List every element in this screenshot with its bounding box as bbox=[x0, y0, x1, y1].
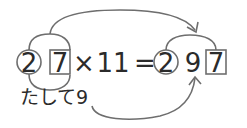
caption-add-to-9: たして9 bbox=[20, 86, 88, 108]
result-tens-digit: 9 bbox=[185, 48, 202, 78]
left-tens-digit: 2 bbox=[21, 48, 38, 78]
multiply-by-11-diagram: 2 7 × 11 = 2 9 7 たして9 bbox=[0, 0, 247, 128]
times-sign: × bbox=[73, 48, 95, 78]
result-hundreds-digit: 2 bbox=[158, 48, 175, 78]
top-arrow bbox=[50, 10, 195, 34]
left-ones-digit: 7 bbox=[52, 48, 69, 78]
bottom-arrow bbox=[92, 78, 195, 119]
result-ones-digit: 7 bbox=[208, 48, 225, 78]
equals-sign: = bbox=[134, 48, 156, 78]
multiplier: 11 bbox=[96, 48, 129, 78]
